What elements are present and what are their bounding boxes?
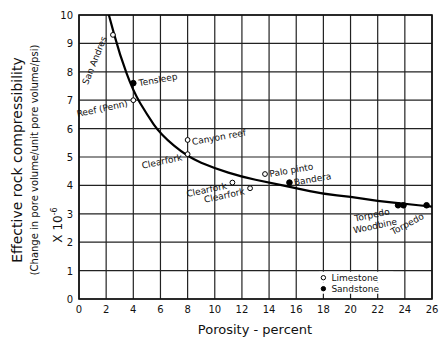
grid-lines xyxy=(79,15,432,299)
limestone-point xyxy=(248,186,253,191)
point-label: Tensleep xyxy=(137,71,179,88)
y-multiplier-label: X 10-6 xyxy=(50,207,65,242)
point-label: San Andres xyxy=(80,35,109,86)
legend-open-marker xyxy=(321,276,325,280)
legend: LimestoneSandstone xyxy=(319,272,393,295)
point-label: Reef (Penn) xyxy=(76,98,129,119)
limestone-point xyxy=(111,32,116,37)
y-tick-label: 7 xyxy=(67,95,73,106)
x-tick-label: 10 xyxy=(208,304,221,315)
limestone-point xyxy=(263,172,268,177)
sandstone-point xyxy=(131,80,137,86)
limestone-point xyxy=(185,138,190,143)
y-tick-label: 2 xyxy=(67,237,73,248)
point-label: Canyon reef xyxy=(191,127,247,146)
limestone-point xyxy=(185,152,190,157)
compressibility-chart: 02468101214161820222426012345678910 San … xyxy=(0,0,447,343)
x-tick-label: 2 xyxy=(103,304,109,315)
sandstone-point xyxy=(424,202,430,208)
legend-label: Sandstone xyxy=(331,284,379,294)
x-axis-label: Porosity - percent xyxy=(198,322,312,337)
y-tick-label: 3 xyxy=(67,209,73,220)
x-tick-label: 14 xyxy=(263,304,276,315)
y-tick-label: 0 xyxy=(67,294,73,305)
x-tick-label: 12 xyxy=(236,304,249,315)
sandstone-point xyxy=(395,202,401,208)
limestone-point xyxy=(131,98,136,103)
x-tick-label: 16 xyxy=(290,304,303,315)
axes: 02468101214161820222426012345678910 xyxy=(60,10,438,315)
x-tick-label: 0 xyxy=(76,304,82,315)
y-tick-label: 1 xyxy=(67,266,73,277)
y-axis-label: Effective rock compressibility xyxy=(9,57,25,262)
x-tick-label: 20 xyxy=(344,304,357,315)
x-tick-label: 18 xyxy=(317,304,330,315)
limestone-point xyxy=(230,180,235,185)
point-label: Clearfork xyxy=(141,152,184,170)
y-tick-label: 4 xyxy=(67,180,73,191)
sandstone-point xyxy=(401,202,407,208)
y-tick-label: 6 xyxy=(67,124,73,135)
legend-label: Limestone xyxy=(331,273,378,283)
x-tick-label: 8 xyxy=(184,304,190,315)
x-tick-label: 26 xyxy=(426,304,439,315)
x-tick-label: 4 xyxy=(130,304,136,315)
legend-filled-marker xyxy=(321,287,325,291)
x-tick-label: 22 xyxy=(371,304,384,315)
y-axis-sublabel: (Change in pore volume/unit pore volume/… xyxy=(29,45,40,276)
y-tick-label: 9 xyxy=(67,38,73,49)
x-tick-label: 24 xyxy=(398,304,411,315)
data-points: San AndresReef (Penn)Canyon reefClearfor… xyxy=(76,32,430,237)
x-tick-label: 6 xyxy=(157,304,163,315)
sandstone-point xyxy=(287,180,293,186)
y-tick-label: 8 xyxy=(67,67,73,78)
y-tick-label: 10 xyxy=(60,10,73,21)
y-tick-label: 5 xyxy=(67,152,73,163)
